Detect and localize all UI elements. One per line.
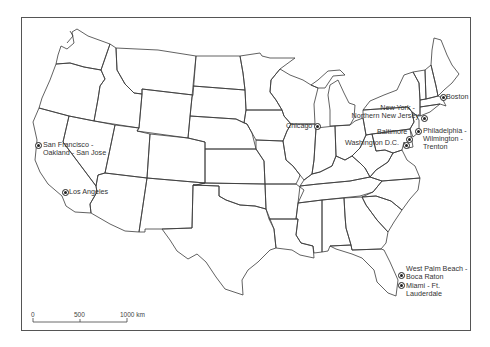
state-minnesota [240,53,295,110]
state-louisiana [269,219,314,258]
state-kentucky [300,156,370,186]
city-label-boston: Boston [446,93,468,101]
state-california [33,108,97,213]
state-new-mexico [139,178,205,232]
city-label-philadelphia: Philadelphia - Wilmington - Trenton [423,127,467,151]
state-north-carolina [362,178,420,210]
state-nebraska [188,116,256,149]
state-michigan [311,70,355,126]
state-indiana [312,126,336,174]
city-marker-west-palm-beach[interactable] [398,272,405,279]
scale-label-1000: 1000 km [120,311,145,318]
state-montana [116,48,196,95]
city-marker-new-york[interactable] [421,115,428,122]
state-texas [162,185,276,295]
city-marker-san-francisco[interactable] [35,142,42,149]
state-maine [431,38,459,96]
city-marker-los-angeles[interactable] [62,189,69,196]
scale-bar [33,318,127,322]
state-washington [56,29,110,70]
state-wyoming [137,89,193,138]
city-marker-miami[interactable] [398,282,405,289]
state-vermont [413,70,426,100]
state-colorado [147,134,205,183]
scale-label-500: 500 [74,311,85,318]
state-arizona [90,173,147,232]
state-mississippi [296,200,322,253]
state-alabama [322,198,351,252]
state-virginia [370,150,420,181]
city-marker-philadelphia[interactable] [415,128,422,135]
city-label-san-francisco: San Francisco - Oakland - San Jose [43,141,106,157]
state-florida [330,245,398,296]
city-label-washington: Washington D.C. [345,139,399,147]
state-utah [105,125,150,178]
state-illinois [283,124,316,180]
city-label-west-palm-beach: West Palm Beach - Boca Raton [406,265,467,281]
state-kansas [205,149,265,184]
state-new-hampshire [425,65,438,99]
state-south-carolina [362,196,402,232]
city-marker-washington[interactable] [403,142,410,149]
state-missouri [256,140,300,184]
state-idaho [94,44,142,128]
city-label-new-york: New York - Northern New Jersey [351,104,419,120]
state-north-dakota [193,56,245,90]
state-tennessee [298,177,382,203]
scale-label-0: 0 [31,311,35,318]
city-label-los-angeles: Los Angeles [69,188,108,196]
state-oklahoma [193,183,266,209]
city-label-miami: Miami - Ft. Lauderdale [406,282,442,298]
state-oregon [39,63,105,121]
city-label-chicago: Chicago [286,122,312,130]
city-label-baltimore: Baltimore [377,128,407,136]
state-wisconsin [270,69,318,124]
city-marker-chicago[interactable] [314,123,321,130]
